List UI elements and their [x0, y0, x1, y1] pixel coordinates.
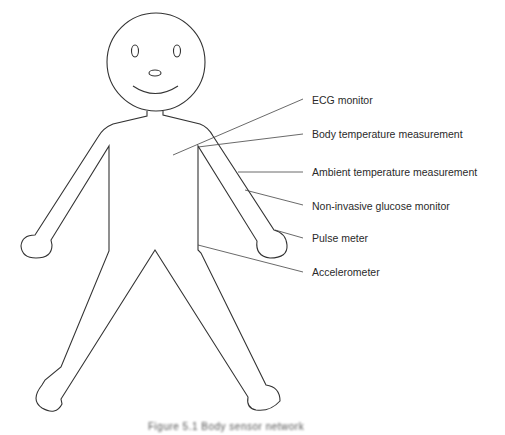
mouth-icon: [133, 86, 178, 94]
label-ecg-monitor: ECG monitor: [312, 94, 373, 106]
label-pulse-meter: Pulse meter: [312, 232, 368, 244]
label-glucose-monitor: Non-invasive glucose monitor: [312, 200, 450, 212]
label-body-temperature: Body temperature measurement: [312, 128, 463, 140]
body-outline: [21, 111, 287, 411]
figure-caption: Figure 5.1 Body sensor network: [148, 421, 304, 432]
head: [107, 13, 205, 111]
label-accelerometer: Accelerometer: [312, 266, 380, 278]
leader-ecg: [173, 99, 303, 155]
leader-glucose: [245, 190, 303, 205]
label-ambient-temperature: Ambient temperature measurement: [312, 166, 477, 178]
body-diagram: [0, 0, 505, 435]
nose-icon: [149, 70, 161, 76]
left-eye-icon: [132, 45, 139, 57]
right-eye-icon: [174, 45, 181, 57]
leader-body-temp: [198, 134, 303, 147]
leader-pulse: [275, 230, 303, 238]
